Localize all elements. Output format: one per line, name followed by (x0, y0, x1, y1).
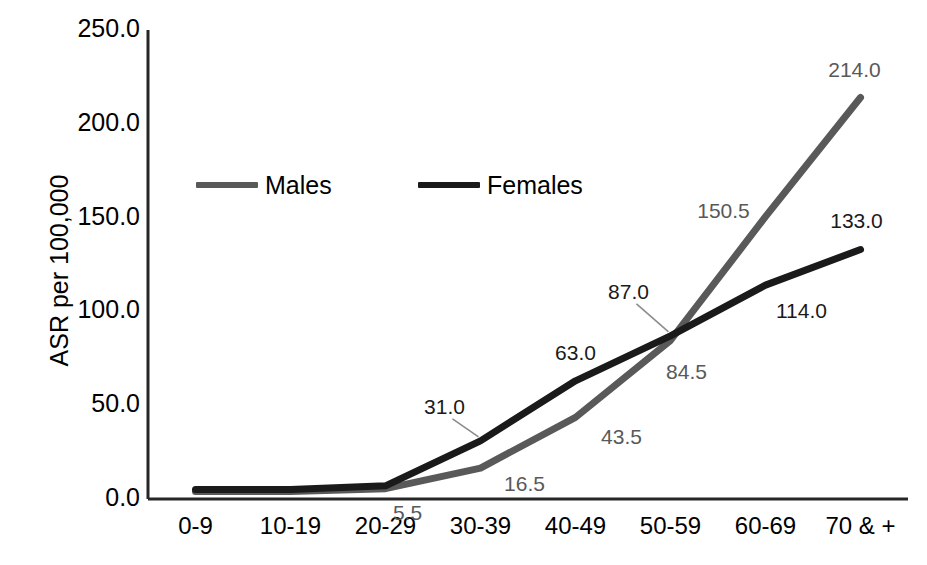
series-line-females (196, 249, 861, 489)
legend-swatch-females (418, 182, 480, 188)
legend-item-females: Females (418, 168, 583, 202)
x-tick-label: 70 & + (825, 512, 895, 540)
x-tick-label: 60-69 (735, 512, 796, 540)
legend-item-males: Males (196, 168, 332, 202)
data-label: 133.0 (830, 209, 883, 233)
data-label: 84.5 (666, 360, 707, 384)
axis-lines (148, 30, 908, 499)
x-axis-tick-labels: 0-910-1920-2930-3940-4950-5960-6970 & + (148, 512, 908, 552)
data-label: 214.0 (828, 58, 881, 82)
series-line-males (196, 98, 861, 492)
x-tick-label: 50-59 (640, 512, 701, 540)
legend-label-males: Males (265, 171, 332, 200)
data-label: 87.0 (608, 280, 649, 304)
data-label: 150.5 (697, 199, 750, 223)
label-leader-line (453, 419, 479, 437)
x-tick-label: 40-49 (545, 512, 606, 540)
data-label: 114.0 (776, 299, 827, 323)
legend-swatch-males (196, 182, 258, 188)
data-label: 16.5 (504, 472, 545, 496)
legend-label-females: Females (487, 171, 583, 200)
data-label: 31.0 (424, 395, 465, 419)
line-chart: ASR per 100,000 0.050.0100.0150.0200.025… (0, 0, 927, 565)
data-label: 43.5 (601, 425, 642, 449)
data-label: 5.5 (393, 501, 422, 525)
x-tick-label: 10-19 (260, 512, 321, 540)
label-leader-line (637, 304, 669, 332)
data-label: 63.0 (555, 341, 596, 365)
series-lines (196, 98, 861, 492)
plot-area (0, 0, 927, 565)
x-tick-label: 30-39 (450, 512, 511, 540)
x-tick-label: 0-9 (178, 512, 213, 540)
